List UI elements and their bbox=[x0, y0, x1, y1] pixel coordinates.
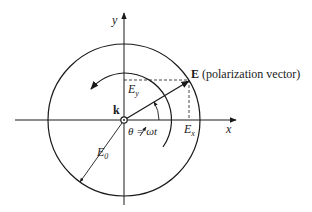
ex-label: Ex bbox=[183, 122, 195, 138]
k-origin-dot bbox=[123, 119, 125, 121]
ey-label: Ey bbox=[127, 82, 139, 98]
e0-label: E0 bbox=[96, 145, 108, 161]
x-axis-label: x bbox=[225, 122, 232, 136]
e-vector-label: E (polarization vector) bbox=[191, 67, 300, 81]
y-axis-label: y bbox=[111, 13, 118, 27]
k-label: k bbox=[113, 103, 120, 117]
theta-label: θ = ωt bbox=[128, 125, 158, 137]
theta-arc bbox=[154, 102, 159, 120]
polarization-diagram: y x E (polarization vector) Ey Ex k θ = … bbox=[0, 0, 312, 212]
